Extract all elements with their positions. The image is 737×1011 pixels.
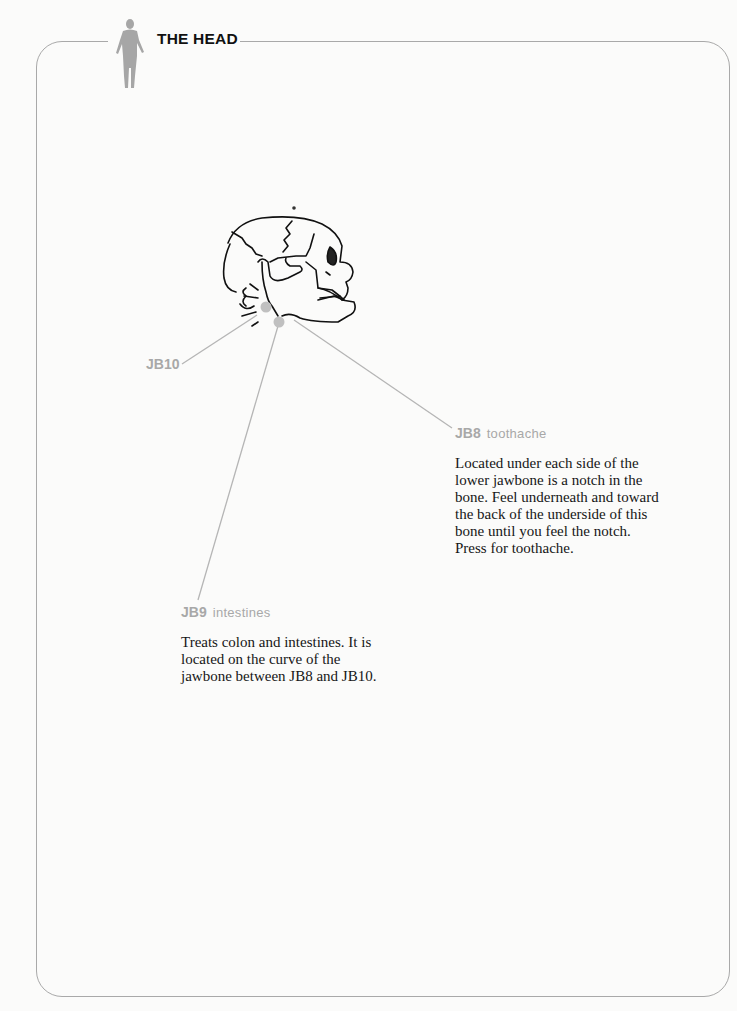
point-code: JB8 <box>455 425 481 441</box>
text-line: jawbone between JB8 and JB10. <box>181 668 376 685</box>
point-code: JB9 <box>181 604 207 620</box>
text-line: bone. Feel underneath and toward <box>455 489 659 506</box>
text-line: Treats colon and intestines. It is <box>181 634 376 651</box>
jb9-description: Treats colon and intestines. It is locat… <box>181 634 376 685</box>
text-line: Located under each side of the <box>455 455 659 472</box>
text-line: bone until you feel the notch. <box>455 523 659 540</box>
point-name: toothache <box>487 426 547 441</box>
text-line: located on the curve of the <box>181 651 376 668</box>
point-label-jb10: JB10 <box>146 355 179 373</box>
page: THE HEAD <box>0 0 737 1011</box>
text-line: the back of the underside of this <box>455 506 659 523</box>
text-line: Press for toothache. <box>455 540 659 557</box>
skull-icon <box>224 206 356 326</box>
point-name: intestines <box>213 605 271 620</box>
point-code: JB10 <box>146 356 179 372</box>
jb8-description: Located under each side of the lower jaw… <box>455 455 659 557</box>
leader-lines <box>182 315 452 600</box>
text-line: lower jawbone is a notch in the <box>455 472 659 489</box>
point-label-jb9: JB9intestines <box>181 603 271 621</box>
point-label-jb8: JB8toothache <box>455 424 547 442</box>
